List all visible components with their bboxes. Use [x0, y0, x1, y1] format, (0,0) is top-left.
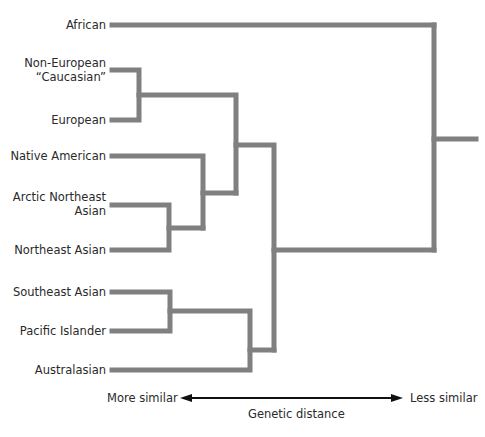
leaf-label-arctic-line2: Asian: [13, 204, 106, 218]
leaf-label-southeast-asian: Southeast Asian: [13, 285, 106, 299]
branch-native-american: [112, 156, 203, 228]
leaf-label-native-american: Native American: [10, 149, 106, 163]
branch-caucasian-join: [139, 95, 236, 193]
leaf-label-northeast-asian: Northeast Asian: [14, 243, 106, 257]
axis-title: Genetic distance: [248, 407, 345, 421]
leaf-label-australasian: Australasian: [35, 363, 106, 377]
leaf-label-african: African: [66, 18, 106, 32]
leaf-label-non-european-line2: “Caucasian”: [24, 70, 106, 84]
branch-non-european: [112, 70, 139, 120]
branch-sea-join: [112, 311, 250, 370]
leaf-label-arctic-northeast-asian: Arctic Northeast Asian: [13, 190, 106, 218]
leaf-label-arctic-line1: Arctic Northeast: [13, 190, 106, 204]
dendrogram-branches: [112, 25, 476, 370]
branch-southeast-pacific: [112, 292, 170, 331]
axis-left-label: More similar: [107, 391, 178, 405]
leaf-label-european: European: [51, 113, 106, 127]
leaf-label-non-european: Non-European “Caucasian”: [24, 56, 106, 84]
distance-axis-arrow: [180, 394, 403, 402]
axis-right-label: Less similar: [410, 391, 477, 405]
leaf-label-non-european-line1: Non-European: [24, 56, 106, 70]
leaf-label-pacific-islander: Pacific Islander: [20, 324, 106, 338]
branch-arctic-northeast: [112, 205, 169, 250]
branch-upper-join: [236, 145, 274, 350]
